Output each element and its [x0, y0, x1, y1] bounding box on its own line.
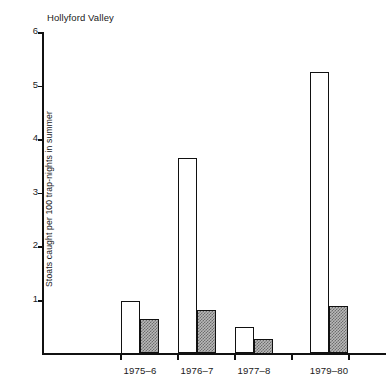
bar-hatched-1977-8 [254, 339, 273, 354]
y-tick-label-6: 6 [33, 26, 38, 36]
stoat-catch-bar-chart: Hollyford Valley Stoats caught per 100 t… [0, 0, 392, 390]
x-axis-label-1975-6: 1975–6 [123, 365, 156, 376]
x-tick-mark-4 [348, 353, 350, 360]
x-axis-label-1976-7: 1976–7 [180, 365, 213, 376]
x-tick-mark-1 [177, 353, 179, 360]
plot-area: 6 5 4 3 2 1 [42, 32, 386, 355]
y-tick-mark-6 [38, 32, 43, 34]
x-tick-mark-0 [120, 353, 122, 360]
y-tick-mark-5 [38, 86, 43, 88]
y-tick-label-4: 4 [33, 133, 38, 143]
x-tick-mark-3 [291, 353, 293, 360]
y-tick-mark-3 [38, 193, 43, 195]
bar-hatched-1979-80 [329, 306, 348, 354]
y-tick-label-3: 3 [33, 187, 38, 197]
y-tick-label-1: 1 [33, 294, 38, 304]
bar-open-1976-7 [178, 158, 197, 353]
y-tick-mark-2 [38, 246, 43, 248]
y-tick-mark-4 [38, 139, 43, 141]
bar-hatched-1975-6 [140, 319, 159, 353]
y-tick-mark-1 [38, 300, 43, 302]
chart-title: Hollyford Valley [47, 12, 114, 23]
x-tick-mark-2 [234, 353, 236, 360]
bar-open-1979-80 [310, 72, 329, 354]
y-tick-label-5: 5 [33, 80, 38, 90]
bar-open-1977-8 [235, 327, 254, 353]
bar-open-1975-6 [121, 301, 140, 354]
bar-hatched-1976-7 [197, 310, 216, 354]
x-axis-label-1977-8: 1977–8 [237, 365, 270, 376]
x-axis-label-1979-80: 1979–80 [310, 365, 349, 376]
y-tick-label-2: 2 [33, 240, 38, 250]
